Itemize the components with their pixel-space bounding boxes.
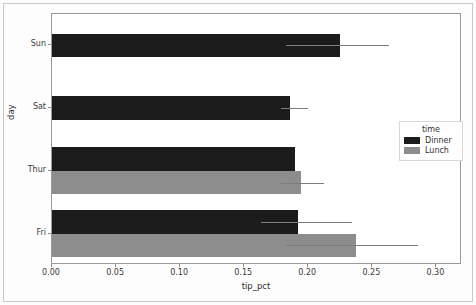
x-axis-label: tip_pct [51, 281, 461, 291]
x-tick-mark [435, 264, 436, 267]
errorbar-thur-lunch [281, 183, 323, 184]
x-tick-label: 0.10 [159, 268, 199, 277]
x-tick-label: 0.15 [223, 268, 263, 277]
x-tick-mark [179, 264, 180, 267]
errorbar-fri-lunch [286, 245, 418, 246]
bar-sat-dinner [52, 96, 290, 120]
x-tick-label: 0.00 [31, 268, 71, 277]
bar-thur-dinner [52, 147, 295, 171]
legend-label-dinner: Dinner [425, 136, 452, 145]
legend-box: time Dinner Lunch [399, 121, 463, 161]
legend-title: time [404, 125, 458, 134]
x-tick-label: 0.05 [95, 268, 135, 277]
x-tick-mark [51, 264, 52, 267]
legend-swatch-dinner [404, 137, 420, 144]
legend-item-dinner[interactable]: Dinner [404, 136, 458, 145]
y-tick-label-sun: Sun [5, 39, 46, 48]
x-tick-label: 0.25 [351, 268, 391, 277]
x-tick-label: 0.20 [287, 268, 327, 277]
bar-thur-lunch [52, 171, 301, 195]
x-tick-mark [243, 264, 244, 267]
legend-item-lunch[interactable]: Lunch [404, 146, 458, 155]
legend-label-lunch: Lunch [425, 146, 449, 155]
x-tick-label: 0.30 [415, 268, 455, 277]
y-tick-label-fri: Fri [5, 228, 46, 237]
x-tick-mark [371, 264, 372, 267]
figure-canvas: day SunSatThurFri 0.000.050.100.150.200.… [0, 0, 476, 305]
y-tick-label-thur: Thur [5, 165, 46, 174]
x-tick-mark [115, 264, 116, 267]
errorbar-sun-dinner [286, 45, 389, 46]
errorbar-sat-dinner [281, 108, 308, 109]
errorbar-fri-dinner [261, 222, 352, 223]
legend-swatch-lunch [404, 147, 420, 154]
y-tick-label-sat: Sat [5, 102, 46, 111]
x-tick-mark [307, 264, 308, 267]
